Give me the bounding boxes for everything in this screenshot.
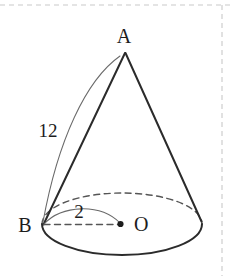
label-center-o: O	[134, 213, 148, 235]
label-radius-length: 2	[74, 201, 84, 222]
center-point-dot	[117, 221, 123, 227]
base-ellipse-hidden-arc	[42, 193, 202, 224]
label-apex-a: A	[117, 25, 132, 47]
label-base-point-b: B	[18, 214, 31, 236]
cone-diagram-canvas: A 12 B 2 O	[0, 0, 232, 276]
base-ellipse-visible-arc	[42, 224, 202, 255]
cone-diagram-svg: A 12 B 2 O	[0, 0, 232, 276]
slant-edge-right	[126, 53, 202, 222]
label-slant-length: 12	[39, 120, 58, 141]
